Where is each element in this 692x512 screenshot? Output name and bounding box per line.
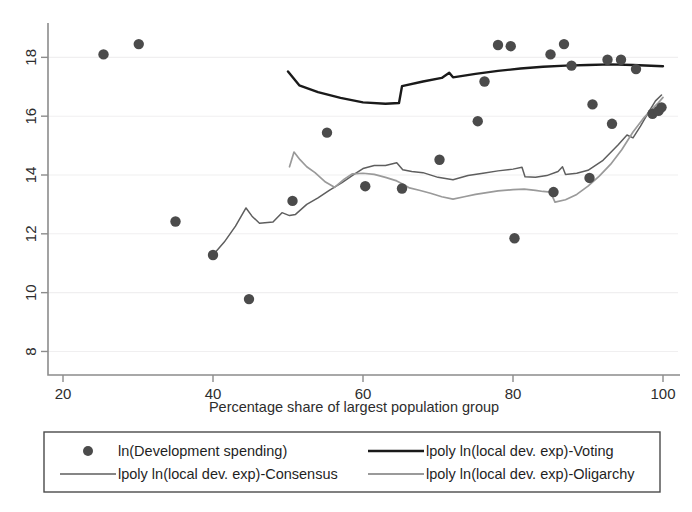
data-point bbox=[170, 216, 180, 226]
data-point bbox=[493, 40, 503, 50]
data-point bbox=[566, 60, 576, 70]
data-point bbox=[509, 233, 519, 243]
data-point bbox=[559, 39, 569, 49]
y-tick-label-18: 18 bbox=[22, 49, 39, 66]
x-axis-title: Percentage share of largest population g… bbox=[209, 399, 499, 415]
data-point bbox=[548, 187, 558, 197]
legend-label: lpoly ln(local dev. exp)-Consensus bbox=[118, 466, 338, 482]
x-tick-label-80: 80 bbox=[505, 385, 522, 402]
y-tick-label-12: 12 bbox=[22, 225, 39, 242]
data-point bbox=[545, 49, 555, 59]
data-point bbox=[360, 181, 370, 191]
data-point bbox=[434, 155, 444, 165]
legend-label: lpoly ln(local dev. exp)-Oligarchy bbox=[426, 466, 635, 482]
x-tick-label-100: 100 bbox=[650, 385, 675, 402]
legend-dot-icon bbox=[83, 446, 93, 456]
y-tick-label-8: 8 bbox=[22, 347, 39, 355]
data-point bbox=[631, 64, 641, 74]
legend-label: ln(Development spending) bbox=[118, 443, 287, 459]
data-point bbox=[479, 76, 489, 86]
data-point bbox=[607, 119, 617, 129]
y-tick-label-14: 14 bbox=[22, 167, 39, 184]
chart-container: 8101214161820406080100 Percentage share … bbox=[0, 0, 692, 512]
data-point bbox=[473, 116, 483, 126]
legend-label: lpoly ln(local dev. exp)-Voting bbox=[426, 443, 614, 459]
scatter-line-chart: 8101214161820406080100 Percentage share … bbox=[0, 0, 692, 512]
data-point bbox=[397, 183, 407, 193]
data-point bbox=[616, 55, 626, 65]
data-point bbox=[98, 49, 108, 59]
y-tick-label-16: 16 bbox=[22, 108, 39, 125]
data-point bbox=[602, 55, 612, 65]
chart-legend: ln(Development spending)lpoly ln(local d… bbox=[44, 432, 660, 492]
y-tick-label-10: 10 bbox=[22, 284, 39, 301]
data-point bbox=[656, 102, 666, 112]
data-point bbox=[587, 99, 597, 109]
x-tick-label-20: 20 bbox=[55, 385, 72, 402]
data-point bbox=[322, 127, 332, 137]
legend-box bbox=[44, 432, 660, 492]
data-point bbox=[287, 196, 297, 206]
data-point bbox=[244, 294, 254, 304]
data-point bbox=[208, 250, 218, 260]
data-point bbox=[584, 173, 594, 183]
data-point bbox=[506, 41, 516, 51]
data-point bbox=[134, 39, 144, 49]
